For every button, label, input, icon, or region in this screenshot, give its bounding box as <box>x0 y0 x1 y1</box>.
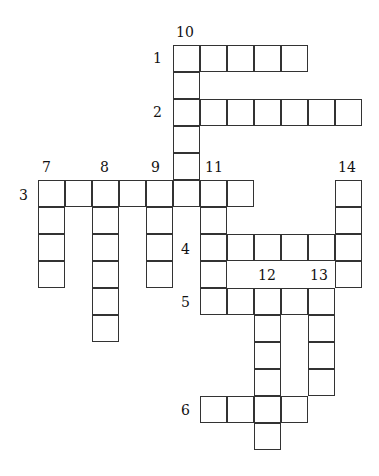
crossword-cell[interactable] <box>200 288 227 315</box>
crossword-cell[interactable] <box>308 99 335 126</box>
crossword-cell[interactable] <box>146 234 173 261</box>
crossword-cell[interactable] <box>335 207 362 234</box>
crossword-cell[interactable] <box>335 99 362 126</box>
crossword-cell[interactable] <box>254 342 281 369</box>
crossword-cell[interactable] <box>38 207 65 234</box>
crossword-cell[interactable] <box>254 99 281 126</box>
crossword-cell[interactable] <box>335 234 362 261</box>
crossword-cell[interactable] <box>38 261 65 288</box>
crossword-cell[interactable] <box>92 288 119 315</box>
crossword-cell[interactable] <box>65 180 92 207</box>
crossword-cell[interactable] <box>254 396 281 423</box>
crossword-cell[interactable] <box>254 369 281 396</box>
crossword-cell[interactable] <box>146 207 173 234</box>
crossword-cell[interactable] <box>281 396 308 423</box>
crossword-cell[interactable] <box>335 180 362 207</box>
crossword-cell[interactable] <box>254 45 281 72</box>
clue-number: 8 <box>100 160 109 174</box>
crossword-cell[interactable] <box>173 180 200 207</box>
crossword-cell[interactable] <box>200 99 227 126</box>
crossword-cell[interactable] <box>335 261 362 288</box>
crossword-cell[interactable] <box>92 180 119 207</box>
clue-number: 6 <box>181 403 190 417</box>
crossword-cell[interactable] <box>227 180 254 207</box>
crossword-cell[interactable] <box>200 207 227 234</box>
crossword-cell[interactable] <box>38 234 65 261</box>
crossword-cell[interactable] <box>92 234 119 261</box>
crossword-cell[interactable] <box>173 126 200 153</box>
clue-number: 9 <box>151 160 160 174</box>
crossword-cell[interactable] <box>308 315 335 342</box>
crossword-cell[interactable] <box>200 234 227 261</box>
crossword-cell[interactable] <box>254 315 281 342</box>
crossword-cell[interactable] <box>92 315 119 342</box>
crossword-cell[interactable] <box>254 423 281 450</box>
clue-number: 2 <box>153 105 162 119</box>
crossword-cell[interactable] <box>146 261 173 288</box>
clue-number: 7 <box>42 160 51 174</box>
crossword-cell[interactable] <box>119 180 146 207</box>
clue-number: 1 <box>153 51 162 65</box>
crossword-cell[interactable] <box>200 180 227 207</box>
crossword-cell[interactable] <box>227 234 254 261</box>
crossword-cell[interactable] <box>200 45 227 72</box>
crossword-cell[interactable] <box>146 180 173 207</box>
crossword-cell[interactable] <box>38 180 65 207</box>
clue-number: 4 <box>181 242 190 256</box>
clue-number: 14 <box>338 160 356 174</box>
crossword-cell[interactable] <box>173 45 200 72</box>
crossword-cell[interactable] <box>308 288 335 315</box>
crossword-cell[interactable] <box>308 234 335 261</box>
crossword-cell[interactable] <box>308 342 335 369</box>
clue-number: 12 <box>258 268 276 282</box>
crossword-cell[interactable] <box>281 45 308 72</box>
crossword-cell[interactable] <box>227 99 254 126</box>
crossword-cell[interactable] <box>227 45 254 72</box>
clue-number: 5 <box>181 295 190 309</box>
crossword-cell[interactable] <box>92 207 119 234</box>
clue-number: 13 <box>310 268 328 282</box>
crossword-cell[interactable] <box>254 234 281 261</box>
crossword-cell[interactable] <box>173 153 200 180</box>
crossword-cell[interactable] <box>92 261 119 288</box>
crossword-cell[interactable] <box>281 234 308 261</box>
crossword-cell[interactable] <box>308 369 335 396</box>
crossword-cell[interactable] <box>227 396 254 423</box>
crossword-cell[interactable] <box>227 288 254 315</box>
clue-number: 3 <box>19 188 28 202</box>
clue-number: 10 <box>176 25 194 39</box>
crossword-cell[interactable] <box>200 261 227 288</box>
crossword-cell[interactable] <box>281 288 308 315</box>
crossword-cell[interactable] <box>254 288 281 315</box>
crossword-cell[interactable] <box>173 72 200 99</box>
crossword-cell[interactable] <box>173 99 200 126</box>
crossword-cell[interactable] <box>281 99 308 126</box>
clue-number: 11 <box>205 160 223 174</box>
crossword-cell[interactable] <box>200 396 227 423</box>
